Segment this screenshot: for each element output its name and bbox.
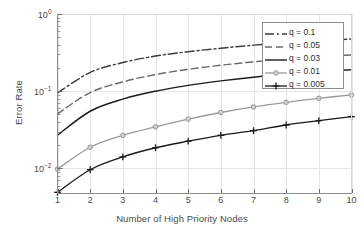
chart-legend: q = 0.1q = 0.05q = 0.03q = 0.01q = 0.005 [262,22,344,89]
x-tick-label-1: 1 [47,195,69,205]
x-tick-label-2: 2 [79,195,101,205]
series-4 [54,113,355,195]
legend-row-1: q = 0.05 [263,39,343,51]
y-axis-label: Error Rate [13,33,24,173]
legend-key-icon [263,26,289,38]
legend-row-2: q = 0.03 [263,52,343,64]
legend-label: q = 0.005 [289,79,325,89]
x-tick-label-7: 7 [243,195,265,205]
legend-label: q = 0.05 [289,40,320,50]
x-tick-label-3: 3 [112,195,134,205]
chart-figure: Number of High Priority Nodes Error Rate… [0,0,364,241]
y-tick-label-1: 10−1 [22,85,52,97]
x-tick-label-10: 10 [341,195,363,205]
y-tick-label-0: 100 [22,8,52,20]
x-axis-label: Number of High Priority Nodes [0,213,364,224]
x-tick-label-5: 5 [177,195,199,205]
legend-label: q = 0.03 [289,53,320,63]
x-tick-label-6: 6 [210,195,232,205]
legend-key-icon [263,52,289,64]
legend-label: q = 0.01 [289,66,320,76]
legend-row-0: q = 0.1 [263,26,343,38]
x-tick-label-8: 8 [275,195,297,205]
x-tick-label-9: 9 [308,195,330,205]
legend-key-icon [263,78,289,90]
series-3 [55,93,354,172]
legend-key-icon [263,65,289,77]
y-tick-label-2: 10−2 [22,162,52,174]
legend-row-3: q = 0.01 [263,65,343,77]
legend-key-icon [263,39,289,51]
x-tick-label-4: 4 [145,195,167,205]
legend-row-4: q = 0.005 [263,78,343,90]
legend-label: q = 0.1 [289,27,315,37]
